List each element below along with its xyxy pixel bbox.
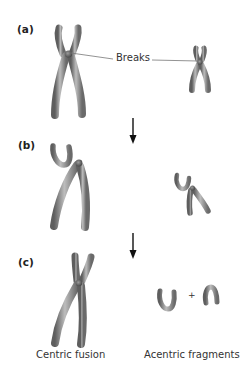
arrow-down-icon	[130, 233, 137, 259]
centric-fusion-chromosome	[55, 256, 91, 344]
centromere-c	[76, 280, 82, 286]
large-chromosome-a	[55, 28, 82, 115]
small-chromosome-b	[189, 186, 208, 214]
centric-fusion-label: Centric fusion	[36, 349, 105, 360]
long-chromosome-b	[54, 160, 86, 227]
v-fragment-b	[53, 146, 70, 165]
arrow-down-icon	[130, 118, 137, 144]
centromere-b	[76, 160, 83, 167]
centromere-small-b	[190, 186, 195, 191]
breaks-leader-left	[71, 53, 113, 59]
n-fragment-c	[205, 287, 217, 303]
u-fragment-c	[160, 291, 175, 309]
small-v-fragment-b	[176, 175, 189, 189]
breaks-label: Breaks	[116, 52, 150, 63]
panel-label-b: (b)	[18, 139, 35, 151]
breaks-leader-right	[152, 60, 198, 61]
acentric-fragments-label: Acentric fragments	[144, 349, 240, 360]
centromere-large-a	[65, 50, 72, 57]
panel-label-a: (a)	[17, 23, 34, 35]
centromere-small-a	[197, 59, 202, 64]
panel-label-c: (c)	[18, 256, 34, 268]
plus-sign: +	[188, 290, 196, 300]
small-chromosome-a	[192, 48, 208, 90]
